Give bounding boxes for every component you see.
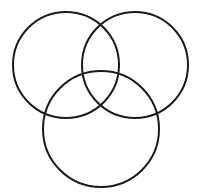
venn-diagram [0,0,202,196]
figure-canvas [0,0,202,196]
canvas-background [0,0,202,196]
